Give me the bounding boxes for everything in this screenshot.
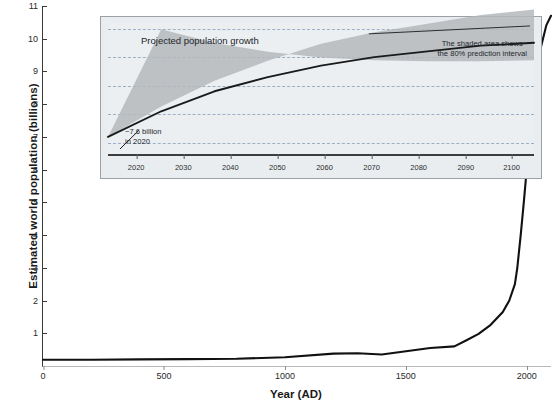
inset-x-tick-2040: 2040 <box>222 163 239 172</box>
y-tick-9: 9 <box>33 66 43 76</box>
x-tick-1000: 1000 <box>275 371 295 381</box>
inset-panel: Projected population growth The shaded a… <box>100 16 542 179</box>
y-tick-2: 2 <box>33 296 43 306</box>
y-tick-7: 7 <box>33 132 43 142</box>
inset-start-annotation: ~7.6 billion in 2020 <box>125 127 162 147</box>
y-tick-1: 1 <box>33 328 43 338</box>
x-tick-2000: 2000 <box>517 371 537 381</box>
x-tick-500: 500 <box>156 371 171 381</box>
inset-x-tick-2100: 2100 <box>503 163 520 172</box>
x-tick-1500: 1500 <box>396 371 416 381</box>
inset-band-annotation-line2: the 80% prediction interval <box>438 49 528 59</box>
y-tick-5: 5 <box>33 197 43 207</box>
y-tick-6: 6 <box>33 165 43 175</box>
inset-band-annotation: The shaded area shows the 80% prediction… <box>438 39 528 59</box>
main-plot-area: 11 10 9 8 7 6 5 4 3 2 1 0 500 1000 1500 … <box>42 6 551 367</box>
inset-start-annotation-line1: ~7.6 billion <box>125 127 162 137</box>
inset-x-tick-2080: 2080 <box>410 163 427 172</box>
inset-x-tick-2020: 2020 <box>128 163 145 172</box>
inset-x-tick-2050: 2050 <box>269 163 286 172</box>
y-tick-3: 3 <box>33 263 43 273</box>
y-tick-8: 8 <box>33 99 43 109</box>
y-tick-10: 10 <box>28 34 43 44</box>
inset-x-axis-line <box>108 154 534 156</box>
inset-x-tick-2030: 2030 <box>175 163 192 172</box>
inset-start-annotation-line2: in 2020 <box>125 137 162 147</box>
population-chart-figure: Estimated world population (billions) 11… <box>0 0 559 415</box>
inset-title: Projected population growth <box>141 35 259 46</box>
y-tick-4: 4 <box>33 230 43 240</box>
x-axis-title: Year (AD) <box>42 388 550 400</box>
inset-band-annotation-line1: The shaded area shows <box>438 39 528 49</box>
y-tick-11: 11 <box>29 1 43 11</box>
x-tick-0: 0 <box>40 371 45 381</box>
inset-x-tick-2060: 2060 <box>316 163 333 172</box>
inset-x-tick-2070: 2070 <box>363 163 380 172</box>
inset-x-tick-2090: 2090 <box>457 163 474 172</box>
